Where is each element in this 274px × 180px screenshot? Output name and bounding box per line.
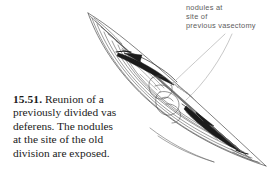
annotation-label: nodules at site of previous vasectomy (186, 3, 274, 31)
figure-caption: 15.51. Reunion of a previously divided v… (13, 93, 147, 160)
annotation-line-2: site of (186, 12, 274, 21)
leader-line-2 (186, 34, 232, 100)
caption-line-2: previously divided vas (13, 106, 147, 119)
figure-page: nodules at site of previous vasectomy 15… (0, 0, 274, 180)
caption-line-3: deferens. The nodules (13, 120, 147, 133)
annotation-line-1: nodules at (186, 3, 274, 12)
leader-lines (170, 34, 232, 100)
caption-text-1: Reunion of a (45, 93, 104, 105)
caption-line-4: at the site of the old (13, 133, 147, 146)
figure-number: 15.51. (13, 93, 42, 105)
wound-tail-lines (150, 128, 214, 162)
caption-line-5: division are exposed. (13, 147, 147, 160)
caption-line-1: 15.51. Reunion of a (13, 93, 147, 106)
annotation-line-3: previous vasectomy (186, 21, 274, 30)
leader-line-1 (170, 34, 225, 86)
